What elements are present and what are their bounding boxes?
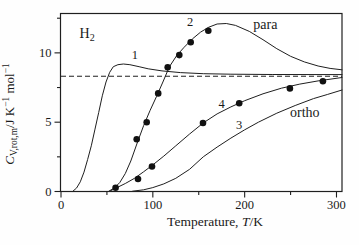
- data-point: [176, 52, 183, 59]
- y-tick-label: 10: [39, 46, 52, 60]
- x-tick-label: 300: [327, 198, 346, 212]
- data-point: [135, 176, 142, 183]
- curve-label-ortho: ortho: [290, 105, 320, 120]
- data-point: [164, 64, 171, 71]
- curve-label-4: 4: [219, 97, 226, 111]
- x-axis-title: Temperature, T/K: [167, 214, 263, 229]
- x-tick-label: 0: [58, 198, 64, 212]
- data-point: [133, 136, 140, 143]
- chart-canvas: 01002003000510Temperature, T/KCV,rot,m/J…: [0, 0, 359, 245]
- curve-label-3: 3: [236, 118, 242, 132]
- h2-rotational-heat-capacity-figure: 01002003000510Temperature, T/KCV,rot,m/J…: [0, 0, 359, 245]
- y-tick-label: 0: [45, 185, 51, 199]
- data-point: [236, 100, 243, 107]
- curve-label-1: 1: [132, 48, 138, 62]
- data-point: [187, 39, 194, 46]
- data-point: [205, 27, 212, 34]
- data-point: [149, 163, 156, 170]
- curve-label-para: para: [253, 17, 278, 32]
- y-axis-title: CV,rot,m/J K−1 mol−1: [1, 63, 19, 165]
- y-tick-label: 5: [45, 115, 51, 129]
- data-point: [287, 85, 294, 92]
- curve-label-2: 2: [187, 15, 193, 29]
- data-point: [320, 78, 327, 85]
- data-point: [112, 185, 119, 192]
- data-point: [143, 119, 150, 126]
- plot-frame: [61, 14, 343, 192]
- x-tick-label: 100: [143, 198, 162, 212]
- data-point: [155, 90, 162, 97]
- x-tick-label: 200: [235, 198, 254, 212]
- data-point: [200, 120, 207, 127]
